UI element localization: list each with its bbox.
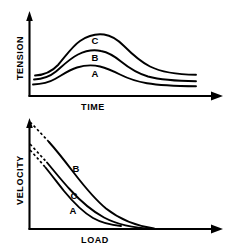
curve-label-a-tension: A	[92, 68, 99, 79]
tension-y-axis-arrowhead	[26, 11, 33, 21]
curve-label-a-velocity: A	[70, 205, 77, 216]
tension-time-panel: C B A TENSION TIME	[0, 0, 236, 118]
curve-c-velocity-extrapolation	[30, 144, 47, 163]
velocity-y-axis	[26, 118, 33, 230]
figure-root: C B A TENSION TIME	[0, 0, 236, 252]
tension-time-plot: C B A TENSION TIME	[0, 0, 236, 118]
tension-x-axis-title: TIME	[81, 102, 105, 112]
velocity-x-axis-title: LOAD	[81, 235, 109, 245]
velocity-x-axis-arrowhead	[211, 225, 223, 234]
tension-x-axis-arrowhead	[211, 92, 223, 101]
curve-label-c-tension: C	[92, 35, 99, 46]
curve-label-b-tension: B	[92, 52, 99, 63]
tension-y-axis-title: TENSION	[15, 36, 25, 80]
velocity-load-panel: B C A VELOCITY LOAD	[0, 112, 236, 252]
curve-c-velocity	[47, 163, 153, 230]
curve-b-velocity-extrapolation	[30, 122, 49, 142]
velocity-y-axis-title: VELOCITY	[15, 155, 25, 205]
curve-label-b-velocity: B	[73, 163, 80, 174]
curve-label-c-velocity: C	[71, 190, 78, 201]
tension-y-axis	[26, 11, 33, 97]
tension-x-axis	[29, 92, 224, 101]
velocity-load-plot: B C A VELOCITY LOAD	[0, 112, 236, 252]
curve-a-tension	[33, 65, 196, 86]
curve-a-velocity	[46, 168, 122, 227]
